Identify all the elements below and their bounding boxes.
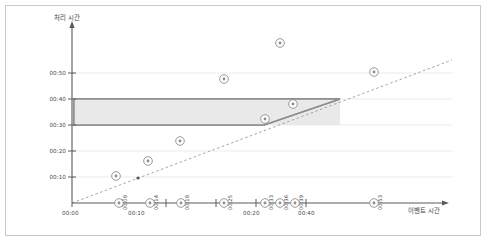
- x-tick-label-rotated: 00:39: [298, 195, 304, 210]
- watermark-band: [74, 99, 340, 125]
- y-tick-label: 00:30: [36, 122, 66, 128]
- data-point: [276, 39, 285, 48]
- x-tick-label-rotated: 00:33: [268, 195, 274, 210]
- data-point: [112, 172, 121, 181]
- x-tick-label: 00:20: [243, 210, 260, 216]
- y-tick-label: 00:10: [36, 174, 66, 180]
- x-tick-label-rotated: 00:36: [283, 195, 289, 210]
- chart-screenshot: 처리 시간 이벤트 시간 00:50 00:40 00:30 00:20 00:…: [0, 0, 488, 245]
- data-point: [176, 137, 185, 146]
- x-tick-label-rotated: 00:18: [184, 195, 190, 210]
- x-tick-label: 00:00: [62, 210, 79, 216]
- x-tick-label: 00:40: [298, 210, 315, 216]
- x-tick-label-rotated: 00:53: [377, 195, 383, 210]
- x-axis-title: 이벤트 시간: [408, 206, 440, 215]
- y-tick-label: 00:40: [36, 96, 66, 102]
- diagonal-reference-line: [72, 60, 452, 203]
- data-point: [261, 115, 270, 124]
- x-tick-label: 00:10: [128, 210, 145, 216]
- x-tick-label-rotated: 00:25: [227, 195, 233, 210]
- data-point: [289, 100, 298, 109]
- y-tick-label: 00:50: [36, 70, 66, 76]
- y-tick-label: 00:20: [36, 148, 66, 154]
- x-tick-label-rotated: 00:08: [122, 195, 128, 210]
- x-tick-label-rotated: 00:14: [153, 195, 159, 210]
- data-point: [370, 68, 379, 77]
- y-axis-title: 처리 시간: [54, 13, 80, 22]
- data-point: [144, 157, 153, 166]
- data-point: [220, 75, 229, 84]
